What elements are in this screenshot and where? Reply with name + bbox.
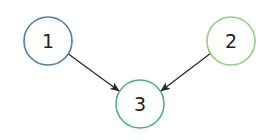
node-2: 2 bbox=[207, 17, 255, 65]
graph-canvas: 1 2 3 bbox=[0, 0, 268, 140]
node-1-label: 1 bbox=[42, 30, 54, 52]
node-1: 1 bbox=[24, 17, 72, 65]
edge-1-to-3 bbox=[67, 53, 119, 91]
node-2-label: 2 bbox=[225, 30, 237, 52]
edge-2-to-3 bbox=[161, 53, 211, 91]
node-3: 3 bbox=[116, 80, 164, 128]
node-3-label: 3 bbox=[134, 93, 146, 115]
